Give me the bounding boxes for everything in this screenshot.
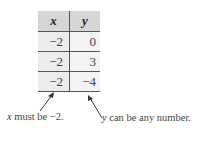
label-x-constraint: x must be −2. bbox=[7, 111, 64, 122]
label-y-constraint: y can be any number. bbox=[102, 112, 191, 123]
annotation-arrows bbox=[0, 0, 213, 146]
arrow-left-icon bbox=[40, 92, 54, 111]
arrow-right-icon bbox=[88, 95, 102, 118]
